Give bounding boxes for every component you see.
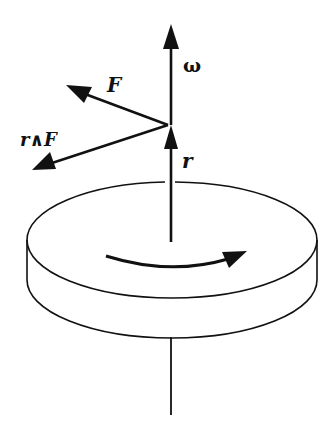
omega-arrowhead-icon [163,24,179,49]
disk-torque-diagram: ω F r∧F r [0,0,334,437]
diagram-canvas: ω F r∧F r [0,0,334,437]
omega-label: ω [183,54,201,76]
disk-top-back-rim-left [27,182,165,240]
torque-label: r∧F [20,129,58,150]
force-arrowhead-icon [66,85,92,103]
force-label: F [106,73,123,97]
disk-side [27,240,317,338]
radius-label: r [182,149,194,173]
disk-top-back-rim-right [175,182,317,240]
radius-vector [164,125,178,242]
torque-arrowhead-icon [32,152,56,170]
omega-vector [163,24,179,125]
radius-arrowhead-icon [164,125,178,149]
